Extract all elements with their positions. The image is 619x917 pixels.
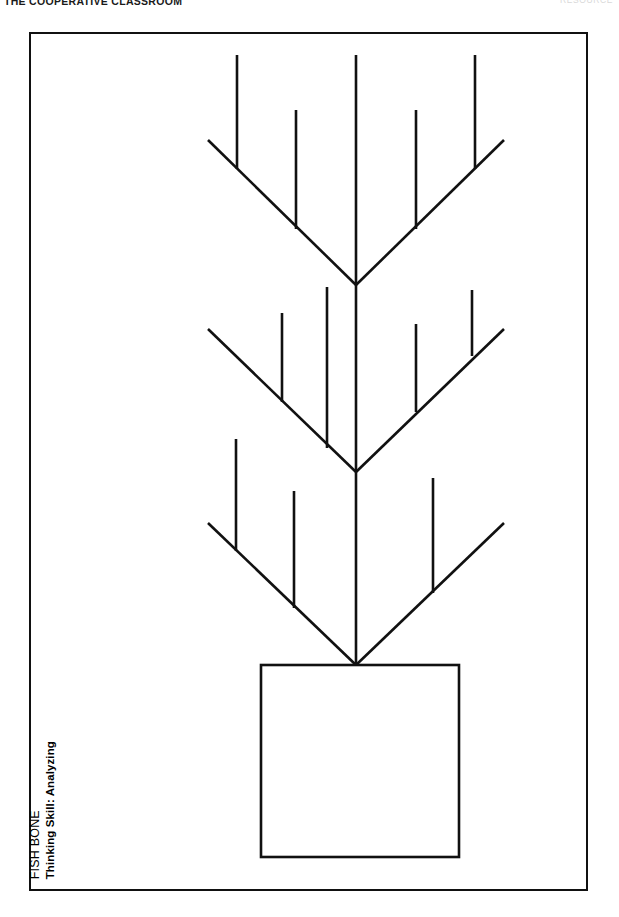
- fishbone-svg: [31, 34, 590, 893]
- fishbone-diagram: [31, 34, 590, 893]
- page-header-right-text: RESOURCE: [560, 0, 613, 5]
- chevron-bottom-right-arm: [356, 523, 504, 665]
- effect-box[interactable]: [261, 665, 459, 857]
- chevron-top-right-arm: [356, 140, 504, 285]
- chevron-middle-right-arm: [356, 329, 504, 472]
- page-header: THE COOPERATIVE CLASSROOM RESOURCE: [0, 0, 619, 11]
- page-header-left-text: THE COOPERATIVE CLASSROOM: [4, 0, 182, 7]
- worksheet-frame: FISH BONE Thinking Skill: Analyzing: [29, 32, 588, 891]
- chevron-bottom-left-arm: [208, 523, 356, 665]
- chevron-top-left-arm: [208, 140, 356, 285]
